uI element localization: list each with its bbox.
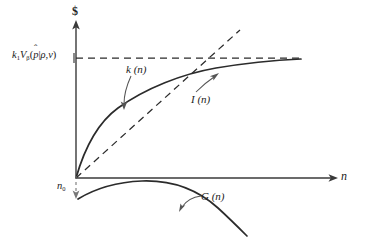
n0-subscript: 0 [62, 185, 65, 192]
diagram-svg [0, 0, 367, 251]
k-n-label: k (n) [126, 64, 146, 75]
x-axis [76, 174, 338, 182]
asymptote-paren-close: ) [53, 49, 57, 60]
asymptote-value-label: k1Vβ(p|ρ,ν) [12, 50, 56, 61]
figure-canvas: $ n k1Vβ(p|ρ,ν) n0 k (n) I (n) G (n) [0, 0, 367, 251]
g-n-label: G (n) [201, 191, 225, 202]
k-n-leader-arrow [121, 76, 131, 110]
y-axis [72, 20, 80, 178]
n0-arrowhead [73, 191, 80, 200]
k-n-dashed-line [76, 30, 240, 178]
y-axis-label: $ [72, 5, 78, 17]
i-n-curve [76, 59, 301, 178]
asymptote-p-hat: p [33, 50, 38, 61]
x-axis-label: n [341, 170, 347, 182]
g-n-leader-arrow [179, 196, 201, 212]
i-n-label: I (n) [191, 94, 210, 105]
i-n-leader-arrow [196, 73, 219, 92]
n0-label: n0 [57, 181, 66, 192]
